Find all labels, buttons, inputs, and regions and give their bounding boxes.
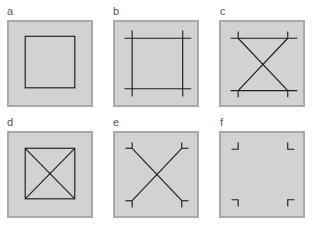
panel-label-c: c (220, 6, 226, 17)
panel-box-f (219, 131, 305, 218)
extended-square-drawing (115, 22, 197, 105)
panel-label-a: a (7, 6, 13, 17)
panel-box-c (219, 20, 305, 107)
square-outline-drawing (9, 22, 91, 105)
panel-box-d (7, 131, 93, 218)
x-with-bars-drawing (221, 22, 303, 105)
panel-label-d: d (7, 117, 13, 128)
x-with-ticks-drawing (115, 133, 197, 216)
square-with-diagonals-drawing (9, 133, 91, 216)
panel-box-a (7, 20, 93, 107)
panel-label-b: b (113, 6, 119, 17)
panel-label-f: f (220, 117, 223, 128)
panel-box-b (113, 20, 199, 107)
panel-label-e: e (113, 117, 119, 128)
panel-box-e (113, 131, 199, 218)
corner-brackets-drawing (221, 133, 303, 216)
